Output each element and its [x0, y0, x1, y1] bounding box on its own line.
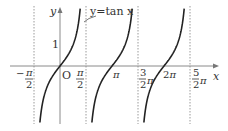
- svg-text:π: π: [199, 75, 207, 86]
- axes: [10, 10, 216, 124]
- svg-text:π: π: [146, 75, 154, 86]
- svg-text:2: 2: [140, 79, 146, 90]
- svg-text:3: 3: [140, 67, 146, 78]
- x-tick-pi: π: [112, 69, 120, 80]
- svg-text:−: −: [16, 68, 24, 79]
- svg-text:2: 2: [193, 79, 199, 90]
- svg-text:π: π: [25, 67, 33, 78]
- tan-graph: y x O 1 y=tan x − π 2 π 2 π 3 2 π 2π 5 2…: [0, 0, 228, 131]
- x-axis-label: x: [213, 70, 220, 83]
- svg-text:2: 2: [77, 79, 83, 90]
- y-axis-label: y: [49, 5, 57, 18]
- y-tick-1: 1: [52, 38, 59, 51]
- x-tick-two-pi: 2π: [163, 69, 176, 80]
- x-tick-half-pi: π 2: [76, 67, 84, 90]
- function-label: y=tan x: [89, 5, 134, 18]
- svg-text:π: π: [76, 67, 84, 78]
- x-tick-five-half-pi: 5 2 π: [192, 67, 207, 90]
- x-tick-neg-half-pi: − π 2: [16, 67, 33, 90]
- y-axis-arrow-icon: [58, 7, 63, 13]
- svg-text:5: 5: [193, 67, 199, 78]
- svg-text:2: 2: [26, 79, 32, 90]
- origin-label: O: [62, 69, 71, 82]
- x-axis-arrow-icon: [213, 64, 219, 69]
